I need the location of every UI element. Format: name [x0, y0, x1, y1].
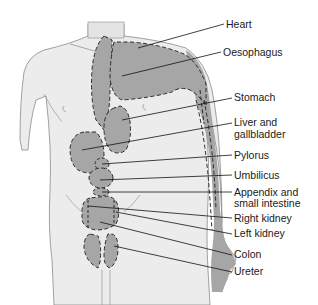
neck: [88, 22, 124, 38]
leader-heart: [138, 24, 224, 48]
label-oesophagus: Oesophagus: [223, 47, 283, 58]
label-colon: Colon: [234, 249, 261, 260]
umbilicus-region: [89, 168, 113, 188]
label-liver: Liver and: [234, 117, 277, 128]
label-appendix-line2: small intestine: [234, 198, 301, 209]
stomach-region: [104, 106, 131, 153]
label-stomach: Stomach: [234, 92, 275, 103]
label-liver-line2: gallbladder: [234, 129, 285, 140]
label-umbilicus: Umbilicus: [234, 170, 280, 181]
referred-pain-diagram: Heart Oesophagus Stomach Liver and gallb…: [0, 0, 318, 305]
label-pylorus: Pylorus: [234, 150, 269, 161]
label-heart: Heart: [226, 19, 252, 30]
label-left-kidney: Left kidney: [234, 228, 285, 239]
label-ureter: Ureter: [234, 266, 263, 277]
label-right-kidney: Right kidney: [234, 213, 292, 224]
